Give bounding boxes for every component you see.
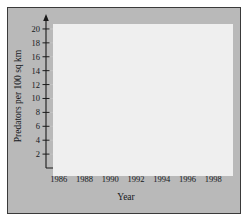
x-axis-title: Year [117,192,135,202]
y-axis [43,14,49,168]
y-tick-label: 10 [32,93,41,103]
y-tick-label: 18 [32,38,41,48]
y-tick-label: 12 [32,80,41,90]
chart-panel: 2468101214161820 19861988199019921994199… [7,7,241,214]
y-axis-title: Predators per 100 sq km [13,49,23,142]
y-tick-label: 8 [36,107,40,117]
y-tick-label: 4 [36,135,41,145]
y-axis-arrow [43,14,49,21]
y-tick-label: 6 [36,121,40,131]
y-tick-label: 20 [32,24,41,34]
plot-canvas [53,24,233,176]
y-tick-label: 2 [36,149,40,159]
y-tick-labels: 2468101214161820 [32,24,41,159]
y-tick-label: 14 [32,66,41,76]
y-tick-label: 16 [32,52,41,62]
chart-screenshot: 2468101214161820 19861988199019921994199… [0,0,250,223]
